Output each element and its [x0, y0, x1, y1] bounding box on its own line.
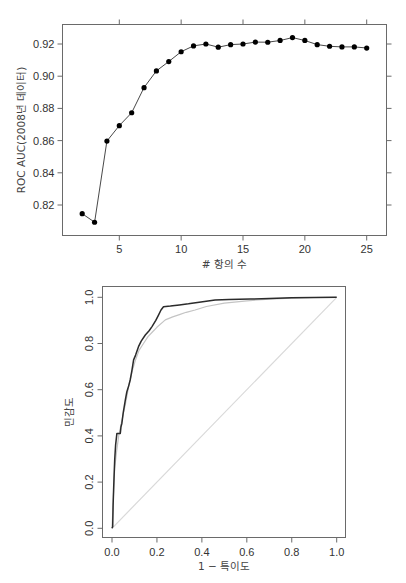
x-axis-label: # 항의 수 [202, 258, 247, 270]
data-point [339, 44, 344, 49]
data-point [104, 138, 109, 143]
data-point [129, 110, 134, 115]
x-tick-label: 1.0 [329, 546, 344, 558]
data-point [315, 42, 320, 47]
x-tick-label: 20 [299, 243, 311, 255]
data-point [166, 59, 171, 64]
reference-diagonal [112, 297, 337, 528]
data-point [216, 45, 221, 50]
figure: 5101520250.820.840.860.880.900.92 # 항의 수… [0, 0, 406, 583]
plot-frame [63, 25, 387, 236]
x-tick-label: 10 [175, 243, 187, 255]
y-tick-label: 0.6 [83, 382, 95, 397]
data-point [154, 68, 159, 73]
y-tick-label: 0.4 [83, 428, 95, 443]
y-tick-label: 0.82 [33, 199, 54, 211]
auc-line-chart: 5101520250.820.840.860.880.900.92 # 항의 수… [15, 20, 392, 271]
x-tick-label: 0.8 [284, 546, 299, 558]
data-point [302, 38, 307, 43]
y-axis-label: ROC AUC(2008년 데이터) [15, 67, 27, 194]
data-point [80, 211, 85, 216]
data-point [327, 44, 332, 49]
data-point [203, 41, 208, 46]
data-point [117, 123, 122, 128]
data-point [179, 49, 184, 54]
data-point [141, 85, 146, 90]
y-tick-label: 0.2 [83, 474, 95, 489]
x-tick-label: 15 [237, 243, 249, 255]
x-axis-label: 1 − 특이도 [198, 560, 250, 572]
y-tick-label: 0.86 [33, 135, 54, 147]
y-tick-label: 0.88 [33, 102, 54, 114]
data-point [265, 40, 270, 45]
data-point [278, 38, 283, 43]
x-tick-label: 5 [116, 243, 122, 255]
axis-ticks: 5101520250.820.840.860.880.900.92 [33, 20, 391, 255]
x-tick-label: 0.2 [149, 546, 164, 558]
data-point [352, 44, 357, 49]
x-tick-label: 0.6 [239, 546, 254, 558]
x-tick-label: 0.4 [194, 546, 209, 558]
y-tick-label: 0.0 [83, 521, 95, 536]
y-tick-label: 0.84 [33, 167, 54, 179]
y-axis-label: 민감도 [63, 397, 75, 427]
data-point [253, 39, 258, 44]
data-point [191, 43, 196, 48]
y-tick-label: 0.92 [33, 38, 54, 50]
data-point [92, 220, 97, 225]
auc-line [82, 38, 367, 223]
data-series [112, 297, 337, 528]
data-series [80, 35, 370, 225]
data-point [290, 35, 295, 40]
x-tick-label: 0.0 [104, 546, 119, 558]
y-tick-label: 0.8 [83, 336, 95, 351]
y-tick-label: 0.90 [33, 70, 54, 82]
data-point [228, 42, 233, 47]
roc-curve-chart: 0.00.20.40.60.81.00.00.20.40.60.81.0 1 −… [63, 287, 346, 573]
data-point [240, 41, 245, 46]
y-tick-label: 1.0 [83, 290, 95, 305]
data-point [364, 45, 369, 50]
x-tick-label: 25 [361, 243, 373, 255]
